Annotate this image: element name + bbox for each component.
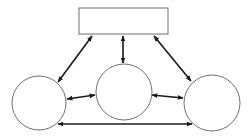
edge-middle-right — [152, 95, 183, 98]
edge-top-left — [58, 36, 92, 82]
edge-top-right — [154, 36, 191, 81]
node-top-rectangle — [79, 8, 168, 34]
node-right-circle — [184, 75, 240, 131]
node-right — [184, 75, 240, 131]
edge-left-middle — [67, 95, 95, 99]
diagram-canvas — [0, 0, 249, 138]
nodes-layer — [12, 8, 240, 131]
node-top — [79, 8, 168, 34]
node-middle — [96, 64, 152, 120]
node-middle-circle — [96, 64, 152, 120]
node-left-circle — [12, 76, 66, 130]
node-left — [12, 76, 66, 130]
